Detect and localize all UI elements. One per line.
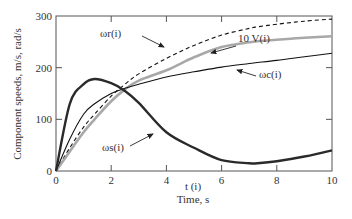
series-curves (56, 19, 332, 171)
x-tick-label: 10 (327, 174, 339, 186)
series-10v-line (56, 36, 332, 171)
x-tick-label: 6 (219, 174, 225, 186)
label-omega-r: ωr(i) (100, 27, 122, 40)
series-omega-s-line (56, 79, 332, 171)
y-tick-label: 100 (36, 113, 53, 125)
label-omega-r-arrow (142, 36, 164, 47)
y-tick-label: 300 (36, 10, 53, 22)
x-axis-variable: t (i) (185, 180, 202, 193)
x-tick-label: 4 (164, 174, 170, 186)
x-tick-label: 0 (53, 174, 59, 186)
y-tick-label: 200 (36, 62, 53, 74)
series-annotations: ωr(i)10 V(i)ωc(i)ωs(i) (100, 27, 282, 154)
x-tick-label: 8 (274, 174, 280, 186)
line-chart: 02468100100200300 ωr(i)10 V(i)ωc(i)ωs(i)… (0, 0, 352, 219)
label-omega-s-arrow (130, 134, 153, 146)
label-omega-s: ωs(i) (102, 141, 124, 154)
y-axis-title: Component speeds, m/s, rad/s (11, 28, 23, 160)
x-axis-title: Time, s (177, 193, 210, 205)
label-10v: 10 V(i) (238, 32, 270, 45)
x-tick-label: 2 (108, 174, 114, 186)
series-omega-c-line (56, 53, 332, 171)
label-omega-c-arrow (237, 70, 256, 76)
label-omega-c: ωc(i) (259, 68, 282, 81)
y-tick-label: 0 (47, 165, 53, 177)
